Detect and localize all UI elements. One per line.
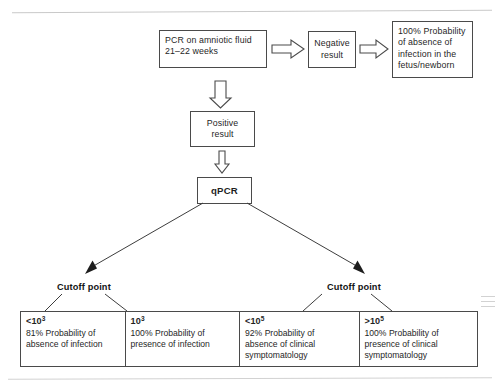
results-cell-1-threshold: <103 — [26, 316, 121, 327]
results-cell-3: <105 92% Probability of absence of clini… — [240, 312, 359, 366]
results-cell-3-exponent: 5 — [261, 315, 265, 322]
block-arrow-right-icon-1 — [272, 39, 305, 59]
results-cell-2: 103 100% Probability of presence of infe… — [126, 312, 241, 366]
node-negative-result-line-1: Negative — [314, 38, 350, 49]
node-no-infection: 100% Probability of absence of infection… — [392, 21, 473, 78]
diagonal-arrow-down-left-icon — [82, 202, 204, 278]
node-qpcr: qPCR — [197, 177, 252, 204]
results-cell-1-body: 81% Probability of absence of infection — [26, 328, 121, 350]
node-no-infection-line-1: 100% Probability — [398, 26, 467, 37]
branch-label-left: Cutoff point — [57, 282, 111, 292]
diagonal-arrow-down-right-icon — [246, 202, 368, 278]
block-arrow-down-icon-1 — [209, 81, 233, 109]
node-pcr-test-line-1: PCR on amniotic fluid — [165, 35, 261, 46]
branch-split-lines-right — [295, 294, 415, 312]
node-positive-result-line-1: Positive — [207, 118, 239, 129]
node-positive-result-line-2: result — [211, 129, 233, 140]
block-arrow-right-icon-2 — [360, 39, 389, 59]
results-cell-1-exponent: 3 — [42, 315, 46, 322]
page-rule-top — [12, 10, 492, 13]
results-table: <103 81% Probability of absence of infec… — [20, 311, 478, 367]
results-cell-3-body: 92% Probability of absence of clinical s… — [245, 328, 354, 362]
branch-label-right: Cutoff point — [327, 282, 381, 292]
results-cell-4-exponent: 5 — [380, 315, 384, 322]
node-pcr-test-line-2: 21–22 weeks — [165, 46, 261, 57]
figure-canvas: PCR on amniotic fluid 21–22 weeks Negati… — [0, 0, 495, 388]
node-positive-result: Positive result — [190, 111, 255, 147]
node-no-infection-line-3: infection in the — [398, 49, 467, 60]
node-negative-result-line-2: result — [321, 50, 343, 61]
node-no-infection-line-2: of absence of — [398, 37, 467, 48]
results-cell-2-body: 100% Probability of presence of infectio… — [131, 328, 236, 350]
results-cell-2-threshold: 103 — [131, 316, 236, 327]
node-negative-result: Negative result — [308, 31, 356, 68]
results-cell-1: <103 81% Probability of absence of infec… — [21, 312, 126, 366]
results-cell-3-threshold: <105 — [245, 316, 354, 327]
results-cell-4-body: 100% Probability of presence of clinical… — [365, 328, 473, 362]
node-pcr-test: PCR on amniotic fluid 21–22 weeks — [159, 30, 267, 68]
page-rule-bottom — [8, 377, 492, 380]
cropped-caption-fragment — [481, 296, 495, 354]
branch-split-lines-left — [43, 294, 153, 312]
node-no-infection-line-4: fetus/newborn — [398, 60, 467, 71]
results-cell-4-threshold: >105 — [365, 316, 473, 327]
block-arrow-down-icon-2 — [214, 151, 231, 174]
results-cell-4: >105 100% Probability of presence of cli… — [360, 312, 477, 366]
node-qpcr-label: qPCR — [211, 185, 238, 196]
results-cell-2-exponent: 3 — [141, 315, 145, 322]
